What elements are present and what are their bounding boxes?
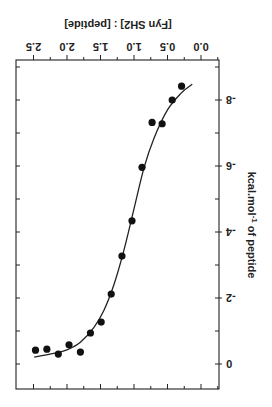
itc-binding-chart: 0.00.51.01.52.02.5 -8-6-4-20 [Fyn SH2] :… xyxy=(0,0,272,407)
x-tick-label: 2.0 xyxy=(59,41,74,53)
data-point xyxy=(32,347,39,354)
y-tick-label: -8 xyxy=(226,94,236,106)
plot-border xyxy=(16,60,219,389)
y-tick-label: -6 xyxy=(226,160,236,172)
y-axis-ticks: -8-6-4-20 xyxy=(16,67,236,370)
y-axis-label: kcal.mol-1 of peptide xyxy=(246,172,259,279)
plot-frame xyxy=(16,60,219,389)
y-tick-label: 0 xyxy=(226,358,232,370)
data-point xyxy=(98,318,105,325)
data-point xyxy=(159,120,166,127)
data-points xyxy=(32,83,185,358)
data-point xyxy=(65,341,72,348)
x-axis-ticks: 0.00.51.01.52.02.5 xyxy=(26,41,218,389)
data-point xyxy=(148,119,155,126)
y-tick-label: -4 xyxy=(225,226,236,238)
data-point xyxy=(178,83,185,90)
data-point xyxy=(55,351,62,358)
x-tick-label: 1.0 xyxy=(126,41,141,53)
data-point xyxy=(169,96,176,103)
fit-curve xyxy=(34,84,192,357)
x-tick-label: 0.5 xyxy=(160,41,175,53)
data-point xyxy=(108,290,115,297)
data-point xyxy=(87,329,94,336)
y-tick-label: -2 xyxy=(226,292,236,304)
chart-svg: 0.00.51.01.52.02.5 -8-6-4-20 [Fyn SH2] :… xyxy=(0,0,272,407)
x-tick-label: 2.5 xyxy=(26,41,41,53)
data-point xyxy=(43,346,50,353)
data-point xyxy=(77,349,84,356)
x-axis-label: [Fyn SH2] : [peptide] xyxy=(64,19,172,31)
x-tick-label: 1.5 xyxy=(93,41,108,53)
x-tick-label: 0.0 xyxy=(193,41,208,53)
data-point xyxy=(138,164,145,171)
data-point xyxy=(118,252,125,259)
data-point xyxy=(128,217,135,224)
